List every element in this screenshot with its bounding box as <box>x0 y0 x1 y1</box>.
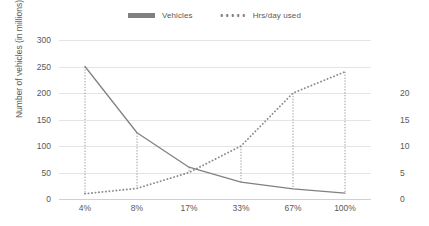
y-axis-left-ticks: 050100150200250300 <box>0 40 55 199</box>
x-axis-tick-label: 8% <box>131 203 143 213</box>
axis-baseline <box>59 199 371 200</box>
y-axis-left-tick-label: 150 <box>37 115 51 125</box>
chart-legend: Vehicles Hrs/day used <box>0 5 429 25</box>
x-axis-tick-label: 4% <box>79 203 91 213</box>
series-line-vehicles[interactable] <box>85 67 345 194</box>
y-axis-right-tick-label: 10 <box>400 141 409 151</box>
solid-line-swatch-icon <box>128 13 155 18</box>
x-axis-tick-label: 67% <box>284 203 301 213</box>
x-axis-tick-label: 17% <box>180 203 197 213</box>
y-axis-left-tick-label: 300 <box>37 35 51 45</box>
plot-area <box>59 40 371 199</box>
y-axis-right-tick-label: 15 <box>400 115 409 125</box>
x-axis-ticks: 4%8%17%33%67%100% <box>59 203 371 219</box>
series-line-hrs-day-used[interactable] <box>85 72 345 194</box>
legend-item-hrs-day-used[interactable]: Hrs/day used <box>219 11 301 20</box>
x-axis-tick-label: 100% <box>334 203 356 213</box>
y-axis-right-tick-label: 20 <box>400 88 409 98</box>
y-axis-right-tick-label: 0 <box>400 194 405 204</box>
y-axis-left-tick-label: 50 <box>42 168 51 178</box>
x-axis-tick-label: 33% <box>232 203 249 213</box>
legend-label-vehicles: Vehicles <box>162 11 193 20</box>
legend-label-hrs-day-used: Hrs/day used <box>253 11 301 20</box>
y-axis-left-tick-label: 100 <box>37 141 51 151</box>
y-axis-left-tick-label: 0 <box>46 194 51 204</box>
y-axis-right-tick-label: 5 <box>400 168 405 178</box>
legend-item-vehicles[interactable]: Vehicles <box>128 11 193 20</box>
y-axis-right-ticks: 05101520 <box>371 40 429 199</box>
chart-container: Vehicles Hrs/day used Number of vehicles… <box>0 0 429 226</box>
series-layer <box>59 40 371 199</box>
y-axis-left-tick-label: 200 <box>37 88 51 98</box>
dotted-line-swatch-icon <box>219 14 246 17</box>
y-axis-left-tick-label: 250 <box>37 62 51 72</box>
